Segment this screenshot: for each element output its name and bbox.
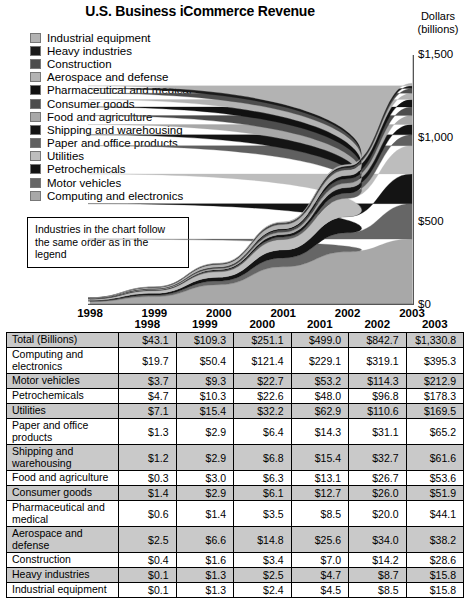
table-cell: $51.9 [406,486,464,501]
table-cell: $7.0 [291,553,349,568]
chart-canvas [88,55,414,305]
y-axis-tick-label: $1,000 [418,131,453,143]
table-cell: $6.3 [234,471,292,486]
table-cell: $15.4 [176,404,234,419]
legend-swatch-icon [30,138,41,148]
legend-swatch-icon [30,164,41,174]
table-cell: $14.2 [349,553,407,568]
table-cell: $4.5 [291,583,349,598]
table-cell: $43.1 [119,333,177,348]
table-cell: $26.7 [349,471,407,486]
y-axis-tick-label: $500 [418,215,444,227]
table-cell: $0.3 [119,471,177,486]
table-cell: $44.1 [406,501,464,527]
table-row-label: Construction [7,553,119,568]
legend-swatch-icon [30,59,41,69]
table-cell: $32.2 [234,404,292,419]
table-column-header: 1998 [119,317,177,333]
table-cell: $0.4 [119,553,177,568]
table-cell: $53.6 [406,471,464,486]
table-cell: $1.4 [119,486,177,501]
table-cell: $6.6 [176,527,234,553]
table-row-label: Petrochemicals [7,389,119,404]
table-row-label: Aerospace and defense [7,527,119,553]
table-corner-cell [7,317,119,333]
table-cell: $251.1 [234,333,292,348]
table-cell: $28.6 [406,553,464,568]
table-cell: $499.0 [291,333,349,348]
table-cell: $4.7 [291,568,349,583]
table-row-label: Paper and office products [7,419,119,445]
table-cell: $229.1 [291,348,349,374]
table-body: Total (Billions)$43.1$109.3$251.1$499.0$… [7,333,464,598]
table-cell: $1.3 [176,583,234,598]
table-cell: $0.1 [119,568,177,583]
table-row-label: Shipping and warehousing [7,445,119,471]
table-row: Industrial equipment$0.1$1.3$2.4$4.5$8.5… [7,583,464,598]
legend-swatch-icon [30,99,41,109]
table-cell: $0.1 [119,583,177,598]
table-cell: $65.2 [406,419,464,445]
table-column-header: 2002 [349,317,407,333]
y-axis-tick-label: $1,500 [418,48,453,60]
table-row: Utilities$7.1$15.4$32.2$62.9$110.6$169.5 [7,404,464,419]
legend-swatch-icon [30,46,41,56]
table-cell: $9.3 [176,374,234,389]
data-table: 199819992000200120022003 Total (Billions… [6,317,464,598]
table-row: Computing and electronics$19.7$50.4$121.… [7,348,464,374]
table-cell: $6.1 [234,486,292,501]
legend-swatch-icon [30,178,41,188]
table-cell: $96.8 [349,389,407,404]
table-cell: $10.3 [176,389,234,404]
table-cell: $14.3 [291,419,349,445]
table-cell: $4.7 [119,389,177,404]
table-column-header: 1999 [176,317,234,333]
table-cell: $8.5 [291,501,349,527]
table-column-header: 2003 [406,317,464,333]
table-row: Aerospace and defense$2.5$6.6$14.8$25.6$… [7,527,464,553]
table-cell: $15.8 [406,583,464,598]
table-cell: $2.9 [176,419,234,445]
table-column-header: 2000 [234,317,292,333]
table-cell: $0.6 [119,501,177,527]
table-cell: $842.7 [349,333,407,348]
table-cell: $1,330.8 [406,333,464,348]
table-row-label: Consumer goods [7,486,119,501]
table-cell: $1.4 [176,501,234,527]
legend-swatch-icon [30,33,41,43]
table-cell: $12.7 [291,486,349,501]
table-cell: $26.0 [349,486,407,501]
table-row: Motor vehicles$3.7$9.3$22.7$53.2$114.3$2… [7,374,464,389]
table-cell: $20.0 [349,501,407,527]
table-cell: $212.9 [406,374,464,389]
table-row: Total (Billions)$43.1$109.3$251.1$499.0$… [7,333,464,348]
table-cell: $3.4 [234,553,292,568]
table-row: Food and agriculture$0.3$3.0$6.3$13.1$26… [7,471,464,486]
table-cell: $15.8 [406,568,464,583]
table-cell: $1.3 [119,419,177,445]
legend-swatch-icon [30,151,41,161]
table-cell: $62.9 [291,404,349,419]
table-cell: $1.2 [119,445,177,471]
legend-swatch-icon [30,191,41,201]
table-cell: $19.7 [119,348,177,374]
table-cell: $169.5 [406,404,464,419]
legend-item: Industrial equipment [30,31,230,44]
table-cell: $395.3 [406,348,464,374]
table-cell: $8.5 [349,583,407,598]
table-row: Shipping and warehousing$1.2$2.9$6.8$15.… [7,445,464,471]
table-row-label: Computing and electronics [7,348,119,374]
table-row-label: Motor vehicles [7,374,119,389]
legend-swatch-icon [30,112,41,122]
table-cell: $22.6 [234,389,292,404]
table-cell: $319.1 [349,348,407,374]
table-row-label: Utilities [7,404,119,419]
table-cell: $3.7 [119,374,177,389]
table-cell: $110.6 [349,404,407,419]
table-row: Construction$0.4$1.6$3.4$7.0$14.2$28.6 [7,553,464,568]
table-cell: $13.1 [291,471,349,486]
legend-swatch-icon [30,85,41,95]
table-cell: $7.1 [119,404,177,419]
table-cell: $2.5 [119,527,177,553]
table-column-header: 2001 [291,317,349,333]
